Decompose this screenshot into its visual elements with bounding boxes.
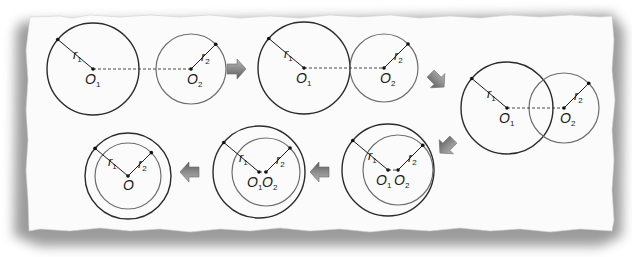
radius-endpoint-dot xyxy=(222,141,226,145)
circles-diagram: r1r2O1O2r1r2O1O2r1r2O1O2r1r2O1O2r1r2O1O2… xyxy=(0,0,632,257)
torn-paper xyxy=(26,15,615,232)
radius-endpoint-dot xyxy=(470,77,474,81)
radius-endpoint-dot xyxy=(56,38,60,42)
radius-endpoint-dot xyxy=(406,42,410,46)
radius-endpoint-dot xyxy=(150,151,154,155)
radius-endpoint-dot xyxy=(214,42,218,46)
diagram-stage: r1r2O1O2r1r2O1O2r1r2O1O2r1r2O1O2r1r2O1O2… xyxy=(0,0,632,257)
radius-endpoint-dot xyxy=(288,146,292,150)
radius-endpoint-dot xyxy=(351,139,355,143)
radius-endpoint-dot xyxy=(93,147,97,151)
radius-endpoint-dot xyxy=(421,143,425,147)
radius-endpoint-dot xyxy=(267,37,271,41)
radius-endpoint-dot xyxy=(587,81,591,85)
label-o: O xyxy=(123,177,134,193)
